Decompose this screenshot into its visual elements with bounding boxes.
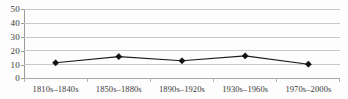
y-axis-tick-label: 20 <box>0 47 20 56</box>
x-axis-tick-mark <box>24 79 25 82</box>
plot-area <box>24 9 340 78</box>
x-axis-labels: 1810s–1840s 1850s–1880s 1890s–1920s 1930… <box>24 83 340 97</box>
x-axis-tick-mark <box>87 79 88 82</box>
y-axis-tick-label: 30 <box>0 33 20 42</box>
line-chart: 50 40 30 20 10 0 1810s–1840s 1850s–1880s… <box>0 0 348 99</box>
x-axis-tick-mark <box>213 79 214 82</box>
x-axis-tick-label: 1890s–1920s <box>150 83 213 97</box>
data-point-marker <box>179 58 185 64</box>
x-axis-line <box>24 78 340 79</box>
x-axis-tick-mark <box>276 79 277 82</box>
x-axis-tick-label: 1930s–1960s <box>214 83 277 97</box>
x-axis-tick-label: 1850s–1880s <box>87 83 150 97</box>
y-axis-labels: 50 40 30 20 10 0 <box>0 0 20 99</box>
data-point-marker <box>116 54 122 60</box>
x-axis-tick-mark <box>339 79 340 82</box>
x-axis-tick-label: 1970s–2000s <box>277 83 340 97</box>
data-point-marker <box>53 60 59 66</box>
y-axis-tick-label: 50 <box>0 5 20 14</box>
x-axis-tick-mark <box>150 79 151 82</box>
data-point-marker <box>305 61 311 67</box>
y-axis-tick-label: 10 <box>0 61 20 70</box>
x-axis-tick-label: 1810s–1840s <box>24 83 87 97</box>
data-point-marker <box>242 53 248 59</box>
y-axis-tick-label: 40 <box>0 19 20 28</box>
y-axis-tick-label: 0 <box>0 74 20 83</box>
data-series <box>24 9 340 78</box>
